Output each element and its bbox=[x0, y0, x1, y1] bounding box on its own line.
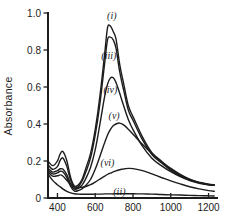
y-tick-label: 0.8 bbox=[27, 45, 41, 56]
curve-label-vi: (vi) bbox=[101, 157, 116, 169]
y-tick-label: 0.4 bbox=[27, 119, 41, 130]
y-tick-label: 1.0 bbox=[27, 8, 41, 19]
x-tick-label: 800 bbox=[125, 202, 142, 213]
absorbance-spectra-figure: Absorbance 4006008001000120000.20.40.60.… bbox=[0, 0, 244, 224]
chart-canvas: Absorbance 4006008001000120000.20.40.60.… bbox=[0, 0, 244, 224]
x-tick-label: 600 bbox=[87, 202, 104, 213]
curve-label-iii: (iii) bbox=[101, 50, 117, 62]
curve-label-v: (v) bbox=[109, 110, 121, 122]
curve-label-ii: (ii) bbox=[113, 186, 126, 198]
x-tick-label: 400 bbox=[49, 202, 66, 213]
y-tick-label: 0.6 bbox=[27, 82, 41, 93]
spectrum-curve-iv bbox=[48, 77, 214, 189]
curve-label-i: (i) bbox=[107, 10, 117, 22]
x-tick-label: 1000 bbox=[160, 202, 183, 213]
y-axis-title: Absorbance bbox=[2, 76, 14, 135]
y-tick-label: 0.2 bbox=[27, 156, 41, 167]
x-tick-label: 1200 bbox=[197, 202, 220, 213]
y-tick-label: 0 bbox=[35, 193, 41, 204]
spectrum-curve-i bbox=[48, 25, 214, 187]
curve-label-iv: (iv) bbox=[103, 84, 118, 96]
